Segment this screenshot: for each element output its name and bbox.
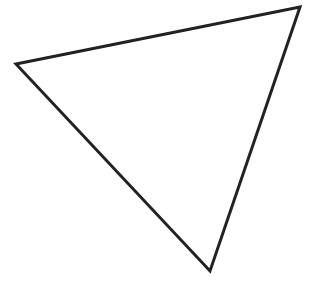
diagram-canvas	[0, 0, 314, 298]
triangle-shape	[16, 7, 300, 271]
